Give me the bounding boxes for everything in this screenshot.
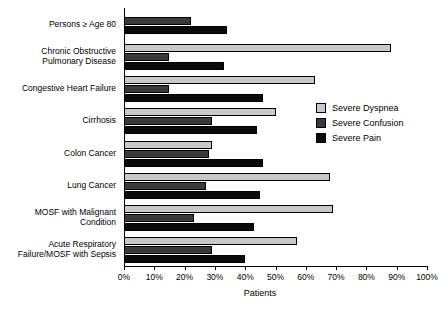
x-tick-mark (124, 266, 125, 270)
bar-group (124, 205, 427, 231)
x-tick-label: 100% (412, 272, 442, 282)
bar-severe-confusion (124, 182, 206, 190)
bar-severe-pain (124, 191, 260, 199)
bar-group (124, 173, 427, 199)
bar-severe-dyspnea (124, 108, 276, 116)
legend-item: Severe Confusion (316, 115, 404, 130)
x-tick-mark (366, 266, 367, 270)
bar-severe-pain (124, 26, 227, 34)
bar-group (124, 17, 427, 34)
legend: Severe DyspneaSevere ConfusionSevere Pai… (316, 100, 404, 145)
legend-swatch (316, 103, 326, 113)
category-label: MOSF with Malignant Condition (35, 207, 116, 227)
legend-swatch (316, 133, 326, 143)
bar-severe-confusion (124, 117, 212, 125)
bar-chart: Persons ≥ Age 80Chronic Obstructive Pulm… (0, 0, 448, 311)
x-tick-label: 50% (261, 272, 291, 282)
x-tick-mark (245, 266, 246, 270)
bar-severe-confusion (124, 17, 191, 25)
x-axis-title-text: Patients (172, 288, 277, 298)
bar-severe-confusion (124, 246, 212, 254)
x-tick-label: 10% (139, 272, 169, 282)
x-tick-mark (276, 266, 277, 270)
bar-severe-dyspnea (124, 237, 297, 245)
x-tick-mark (427, 266, 428, 270)
bar-severe-confusion (124, 53, 169, 61)
category-label: Lung Cancer (67, 180, 116, 190)
bar-group (124, 237, 427, 263)
bar-severe-pain (124, 126, 257, 134)
legend-item: Severe Pain (316, 130, 404, 145)
x-tick-label: 70% (321, 272, 351, 282)
bar-severe-dyspnea (124, 205, 333, 213)
legend-swatch (316, 118, 326, 128)
x-tick-label: 20% (170, 272, 200, 282)
category-label: Persons ≥ Age 80 (49, 19, 116, 29)
x-tick-mark (215, 266, 216, 270)
x-tick-label: 40% (230, 272, 260, 282)
x-axis-title: Patients (0, 288, 448, 298)
bar-severe-dyspnea (124, 76, 315, 84)
x-tick-label: 80% (351, 272, 381, 282)
legend-label: Severe Pain (332, 133, 381, 143)
category-label: Congestive Heart Failure (22, 83, 116, 93)
bar-severe-dyspnea (124, 44, 391, 52)
legend-label: Severe Dyspnea (332, 103, 399, 113)
bar-severe-confusion (124, 150, 209, 158)
x-tick-mark (397, 266, 398, 270)
x-tick-mark (154, 266, 155, 270)
bar-severe-pain (124, 159, 263, 167)
x-tick-mark (306, 266, 307, 270)
x-tick-label: 90% (382, 272, 412, 282)
bar-group (124, 44, 427, 70)
category-label: Colon Cancer (64, 148, 116, 158)
category-label: Cirrhosis (82, 115, 116, 125)
bar-severe-pain (124, 94, 263, 102)
legend-label: Severe Confusion (332, 118, 404, 128)
bar-severe-confusion (124, 214, 194, 222)
category-label: Chronic Obstructive Pulmonary Disease (41, 46, 116, 66)
legend-item: Severe Dyspnea (316, 100, 404, 115)
x-tick-label: 60% (291, 272, 321, 282)
bar-severe-confusion (124, 85, 169, 93)
bar-severe-dyspnea (124, 173, 330, 181)
bar-severe-pain (124, 62, 224, 70)
category-label: Acute Respiratory Failure/MOSF with Seps… (18, 239, 116, 259)
bar-group (124, 76, 427, 102)
bar-severe-pain (124, 223, 254, 231)
x-tick-label: 30% (200, 272, 230, 282)
x-tick-label: 0% (109, 272, 139, 282)
x-tick-mark (336, 266, 337, 270)
bar-severe-pain (124, 255, 245, 263)
x-tick-mark (185, 266, 186, 270)
bar-severe-dyspnea (124, 141, 212, 149)
